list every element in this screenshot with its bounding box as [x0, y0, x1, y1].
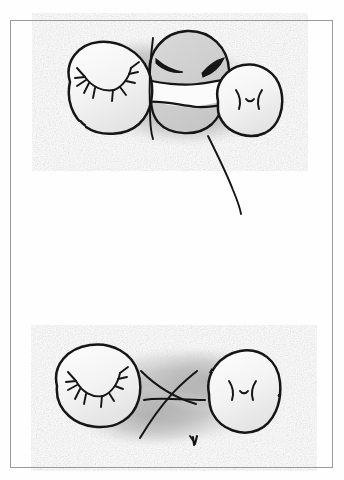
top-scene	[69, 31, 283, 214]
blob-left-lashes	[69, 42, 153, 134]
trailing-tail-line	[208, 136, 241, 214]
bottom-scene	[56, 345, 280, 450]
sketch-page: Two-panel pencil sketch of blob creature…	[0, 0, 344, 480]
blob-bl-lashes	[56, 345, 140, 428]
pencil-drawing-canvas	[0, 0, 344, 480]
blob-br-face	[208, 350, 280, 432]
blob-right-face	[217, 65, 282, 136]
